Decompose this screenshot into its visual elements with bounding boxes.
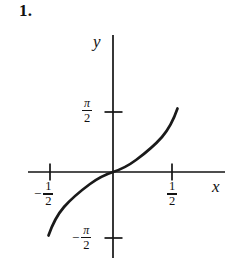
fraction-denominator: 2 bbox=[82, 238, 90, 251]
x-axis-label: x bbox=[212, 178, 220, 195]
x-tick-label-negative-half: − 1 2 bbox=[34, 180, 54, 208]
y-axis-label: y bbox=[93, 33, 101, 50]
y-tick-label-negative-pi-half: − π 2 bbox=[72, 224, 92, 251]
fraction-denominator: 2 bbox=[83, 111, 91, 124]
fraction-denominator: 2 bbox=[44, 195, 52, 208]
graph-plot bbox=[0, 0, 242, 265]
fraction: π 2 bbox=[82, 97, 92, 124]
minus-sign: − bbox=[34, 187, 41, 200]
y-tick-label-pi-half: π 2 bbox=[80, 97, 93, 124]
fraction: π 2 bbox=[81, 224, 91, 251]
fraction: 1 2 bbox=[167, 180, 177, 208]
x-tick-label-positive-half: 1 2 bbox=[165, 180, 178, 208]
fraction-numerator: 1 bbox=[168, 180, 176, 193]
minus-sign: − bbox=[72, 231, 79, 244]
fraction-numerator: π bbox=[83, 97, 91, 110]
figure-container: 1. y x π 2 − π 2 bbox=[0, 0, 242, 265]
fraction: 1 2 bbox=[43, 180, 53, 208]
fraction-numerator: 1 bbox=[44, 180, 52, 193]
fraction-numerator: π bbox=[82, 224, 90, 237]
fraction-denominator: 2 bbox=[168, 195, 176, 208]
